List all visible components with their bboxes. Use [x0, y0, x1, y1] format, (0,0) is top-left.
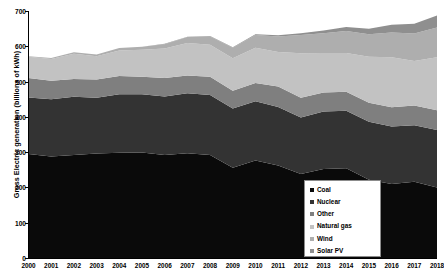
x-tick-label: 2005 — [135, 262, 149, 269]
stacked-area-chart: Gross Electric generation (billions of k… — [0, 0, 444, 275]
x-tick-label: 2006 — [158, 262, 172, 269]
x-tick-label: 2004 — [112, 262, 126, 269]
x-tick-label: 2000 — [21, 262, 35, 269]
x-tick-label: 2015 — [362, 262, 376, 269]
x-tick-label: 2007 — [180, 262, 194, 269]
x-tick-label: 2013 — [316, 262, 330, 269]
x-tick-label: 2008 — [203, 262, 217, 269]
x-axis-ticks: 2000200120022003200420052006200720082009… — [0, 259, 444, 275]
legend-label: Other — [317, 211, 334, 217]
x-tick-label: 2009 — [226, 262, 240, 269]
legend-swatch-icon — [310, 249, 314, 253]
legend-swatch-icon — [310, 212, 314, 216]
legend-item-nuclear[interactable]: Nuclear — [310, 196, 380, 208]
legend-item-natural-gas[interactable]: Natural gas — [310, 221, 380, 233]
legend-label: Nuclear — [317, 199, 340, 205]
x-tick-label: 2002 — [67, 262, 81, 269]
legend-item-solar-pv[interactable]: Solar PV — [310, 245, 380, 257]
legend-swatch-icon — [310, 200, 314, 204]
chart-legend: CoalNuclearOtherNatural gasWindSolar PV — [304, 180, 381, 257]
x-tick-label: 2001 — [44, 262, 58, 269]
legend-label: Natural gas — [317, 223, 352, 229]
x-tick-label: 2018 — [430, 262, 444, 269]
legend-item-wind[interactable]: Wind — [310, 233, 380, 245]
x-tick-label: 2003 — [89, 262, 103, 269]
x-tick-label: 2014 — [339, 262, 353, 269]
legend-label: Solar PV — [317, 248, 343, 254]
x-tick-label: 2010 — [248, 262, 262, 269]
legend-label: Coal — [317, 187, 331, 193]
y-axis-line — [28, 11, 29, 259]
legend-swatch-icon — [310, 188, 314, 192]
legend-item-other[interactable]: Other — [310, 208, 380, 220]
legend-swatch-icon — [310, 225, 314, 229]
x-tick-label: 2011 — [271, 262, 285, 269]
legend-swatch-icon — [310, 237, 314, 241]
x-tick-label: 2012 — [294, 262, 308, 269]
legend-item-coal[interactable]: Coal — [310, 184, 380, 196]
x-tick-label: 2017 — [407, 262, 421, 269]
legend-label: Wind — [317, 236, 333, 242]
x-tick-label: 2016 — [385, 262, 399, 269]
